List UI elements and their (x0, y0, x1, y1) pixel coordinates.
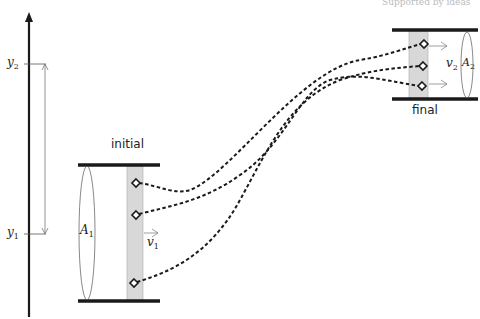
streamline-1 (139, 44, 421, 191)
streamline-2 (139, 77, 420, 214)
diagram-canvas (0, 0, 480, 319)
y2-label: y2 (7, 55, 19, 71)
final-label: final (412, 103, 438, 117)
v2-label: v2 (446, 56, 458, 72)
header-faint-text: Supported by ideas (382, 0, 470, 7)
a2-label: A2 (462, 56, 475, 71)
a1-label: A1 (80, 223, 94, 239)
v1-label: v1 (147, 235, 159, 251)
streamlines (137, 44, 421, 282)
y1-label: y1 (7, 225, 19, 241)
initial-label: initial (111, 137, 144, 151)
particle-markers (130, 40, 428, 287)
streamline-3 (137, 66, 420, 282)
axis-arrowhead-icon (25, 12, 33, 22)
